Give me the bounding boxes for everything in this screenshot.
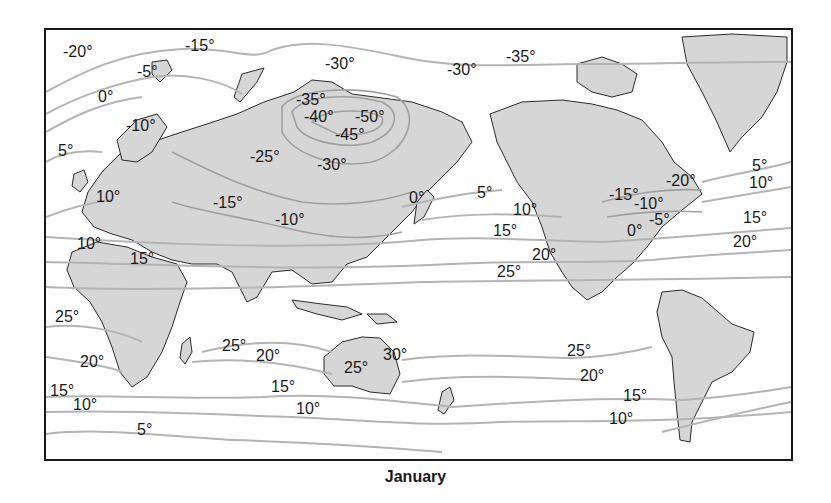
isotherm-label: 10°	[296, 401, 320, 417]
isotherm-label: 5°	[477, 185, 492, 201]
greenland	[682, 34, 787, 152]
isotherm-label: -15°	[185, 38, 215, 54]
isotherm-label: 0°	[409, 190, 424, 206]
new-guinea	[367, 314, 397, 324]
isotherm-label: 0°	[98, 89, 113, 105]
isotherm-label: -10°	[126, 118, 156, 134]
isotherm-label: 15°	[271, 379, 295, 395]
isotherm-label: 15°	[493, 223, 517, 239]
isotherm-label: 25°	[497, 264, 521, 280]
isotherm-label: 5°	[137, 422, 152, 438]
isotherm-label: 15°	[50, 383, 74, 399]
madagascar	[180, 337, 192, 364]
isotherm-label: -15°	[213, 195, 243, 211]
isotherm-label: -20°	[666, 173, 696, 189]
isotherm-label: 5°	[58, 143, 73, 159]
isotherm-label: -5°	[649, 212, 670, 228]
isotherm-label: 20°	[532, 247, 556, 263]
isotherm-label: 10°	[513, 202, 537, 218]
isotherm-label: 15°	[130, 251, 154, 267]
isotherm-label: 20°	[256, 348, 280, 364]
map-caption: January	[0, 468, 831, 486]
isotherm-label: -45°	[335, 127, 365, 143]
isotherm-label: 15°	[743, 210, 767, 226]
isotherm-label: -40°	[304, 109, 334, 125]
british-isles	[72, 170, 88, 192]
isotherm-label: 10°	[609, 411, 633, 427]
isotherm-label: 25°	[567, 343, 591, 359]
isotherm-label: 20°	[80, 354, 104, 370]
isotherm-label: -30°	[325, 56, 355, 72]
isotherm-label: -5°	[137, 64, 158, 80]
isotherm-label: 0°	[627, 223, 642, 239]
isotherm-label: 30°	[383, 347, 407, 363]
new-zealand	[438, 387, 454, 414]
isotherm-label: 5°	[752, 158, 767, 174]
isotherm-label: -25°	[250, 149, 280, 165]
map-frame	[44, 28, 793, 461]
isotherm-label: -30°	[447, 62, 477, 78]
isotherm-label: -10°	[634, 196, 664, 212]
isotherm-label: -35°	[296, 92, 326, 108]
isotherm-label: 20°	[733, 234, 757, 250]
isotherm-label: 10°	[73, 397, 97, 413]
north-america	[490, 100, 702, 300]
isotherm-label: 25°	[55, 309, 79, 325]
isotherm-label: -10°	[275, 212, 305, 228]
isotherm-label: 15°	[623, 388, 647, 404]
novaya-zemlya	[234, 68, 264, 102]
isotherm-map	[46, 30, 791, 459]
isotherm-label: -50°	[355, 109, 385, 125]
isotherm-label: 10°	[749, 175, 773, 191]
isotherm-label: -30°	[317, 157, 347, 173]
isotherm-label: -20°	[63, 44, 93, 60]
isotherm-label: 20°	[580, 368, 604, 384]
isotherm-label: 25°	[222, 338, 246, 354]
isotherm-label: 25°	[344, 360, 368, 376]
isotherm-label: 10°	[96, 189, 120, 205]
isotherm-label: -35°	[506, 49, 536, 65]
isotherm-label: 10°	[77, 236, 101, 252]
indonesia	[292, 300, 362, 320]
